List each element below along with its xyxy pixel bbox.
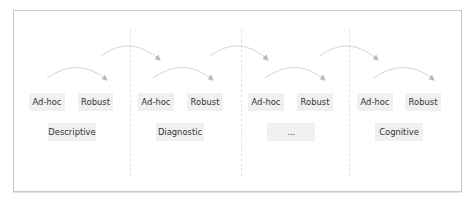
stage-label-box: Descriptive [48,123,96,141]
step-adhoc-box: Ad-hoc [138,93,174,111]
stage-label-box: ... [267,123,315,141]
step-adhoc-box: Ad-hoc [248,93,284,111]
stage-separator [130,30,131,176]
step-robust-box: Robust [297,93,333,111]
step-adhoc-box: Ad-hoc [357,93,393,111]
step-robust-box: Robust [405,93,441,111]
stage-label-box: Diagnostic [156,123,204,141]
step-robust-box: Robust [78,93,113,111]
stage-label-box: Cognitive [375,123,423,141]
stage-separator [241,30,242,176]
step-adhoc-box: Ad-hoc [29,93,65,111]
stage-separator [349,30,350,176]
step-robust-box: Robust [187,93,223,111]
